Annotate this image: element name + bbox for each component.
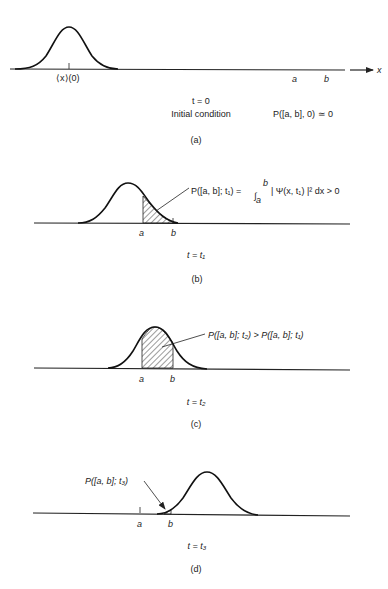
wave-packet-curve: [78, 183, 178, 223]
mean-position-label: ⟨x⟩(0): [56, 73, 80, 83]
leader-line: [156, 188, 189, 211]
panel-c: P([a, b]; t₂) > P([a, b]; t₁) a b t = t₂…: [34, 327, 350, 429]
time-label: t = t₁: [187, 250, 205, 260]
integrand-label: | Ψ(x, t₁) |² dx > 0: [271, 186, 340, 196]
integral-upper-limit: b: [263, 178, 268, 188]
panel-caption: (a): [191, 135, 202, 145]
probability-label: P([a, b]; t₃): [85, 476, 128, 486]
panel-a: x ⟨x⟩(0) a b t = 0 Initial condition P([…: [10, 27, 382, 145]
panel-caption: (d): [191, 564, 202, 574]
panel-caption: (c): [191, 419, 202, 429]
wave-packet-figure: x ⟨x⟩(0) a b t = 0 Initial condition P([…: [0, 0, 388, 589]
time-label: t = t₂: [187, 397, 206, 407]
panel-d: P([a, b]; t₃) a b t = t₃ (d): [33, 472, 350, 574]
a-label: a: [137, 519, 142, 529]
b-label: b: [324, 74, 329, 84]
b-label: b: [168, 519, 173, 529]
probability-lhs: P([a, b]; t₁) =: [191, 186, 241, 196]
b-label: b: [171, 228, 176, 238]
a-label: a: [292, 74, 297, 84]
a-label: a: [139, 228, 144, 238]
time-label: t = 0: [192, 96, 210, 106]
leader-arrow-icon: [144, 481, 165, 509]
probability-label: P([a, b]; t₂) > P([a, b]; t₁): [208, 330, 304, 340]
probability-area: [142, 327, 173, 368]
integral-lower-limit: a: [256, 195, 261, 205]
x-axis-line: [34, 368, 350, 370]
b-label: b: [170, 374, 175, 384]
panel-b: a b P([a, b]; t₁) = ∫ b a | Ψ(x, t₁) |² …: [34, 178, 350, 284]
a-label: a: [139, 374, 144, 384]
time-label: t = t₃: [188, 541, 207, 551]
wave-packet-curve: [15, 27, 118, 69]
x-axis-label: x: [376, 65, 382, 75]
wave-packet-curve: [157, 472, 258, 515]
x-axis-line: [10, 69, 345, 70]
x-axis-line: [33, 513, 350, 516]
initial-condition-label: Initial condition: [171, 109, 231, 119]
panel-caption: (b): [192, 274, 203, 284]
probability-label: P([a, b], 0) ≃ 0: [273, 109, 333, 119]
